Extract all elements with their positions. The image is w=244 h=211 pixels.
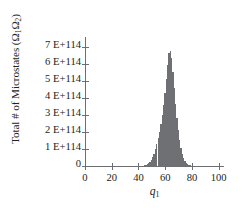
y-axis-title-prefix: Total # of Microstates (Ω <box>9 33 21 144</box>
y-axis-title-suffix: ) <box>9 14 21 18</box>
y-axis-title-mid: Ω <box>9 21 21 29</box>
x-axis-tick-label: 0 <box>82 173 87 184</box>
y-axis-tick-label: 4 E+114 <box>45 91 81 102</box>
x-axis-tick-label: 100 <box>211 173 227 184</box>
x-axis-tick-label: 80 <box>187 173 198 184</box>
x-axis-tick-label: 20 <box>106 173 117 184</box>
y-axis-tick-label: 6 E+114 <box>45 57 81 68</box>
y-axis-tick-label: 0 <box>76 159 81 170</box>
y-axis-title-container: Total # of Microstates (Ω1Ω2) <box>0 0 26 175</box>
chart-figure: Total # of Microstates (Ω1Ω2) 01 E+1142 … <box>0 0 244 211</box>
x-axis-title-sub: 1 <box>155 190 159 199</box>
y-axis-tick-label: 2 E+114 <box>45 125 81 136</box>
y-axis-title: Total # of Microstates (Ω1Ω2) <box>9 0 23 159</box>
y-axis-tick-label: 1 E+114 <box>45 142 81 153</box>
y-axis-tick-label: 7 E+114 <box>45 40 81 51</box>
x-axis-tick-label: 40 <box>133 173 144 184</box>
x-axis-tick-label: 60 <box>160 173 171 184</box>
histogram-bars <box>86 37 224 166</box>
y-axis-tick-label: 5 E+114 <box>45 74 81 85</box>
x-axis-title: q1 <box>85 186 224 199</box>
y-axis-title-sub-2: 2 <box>14 18 23 22</box>
plot-area: 01 E+1142 E+1143 E+1144 E+1145 E+1146 E+… <box>85 37 224 166</box>
y-axis-title-sub-1: 1 <box>14 30 23 34</box>
x-axis-line <box>85 166 224 167</box>
y-axis-tick-label: 3 E+114 <box>45 108 81 119</box>
